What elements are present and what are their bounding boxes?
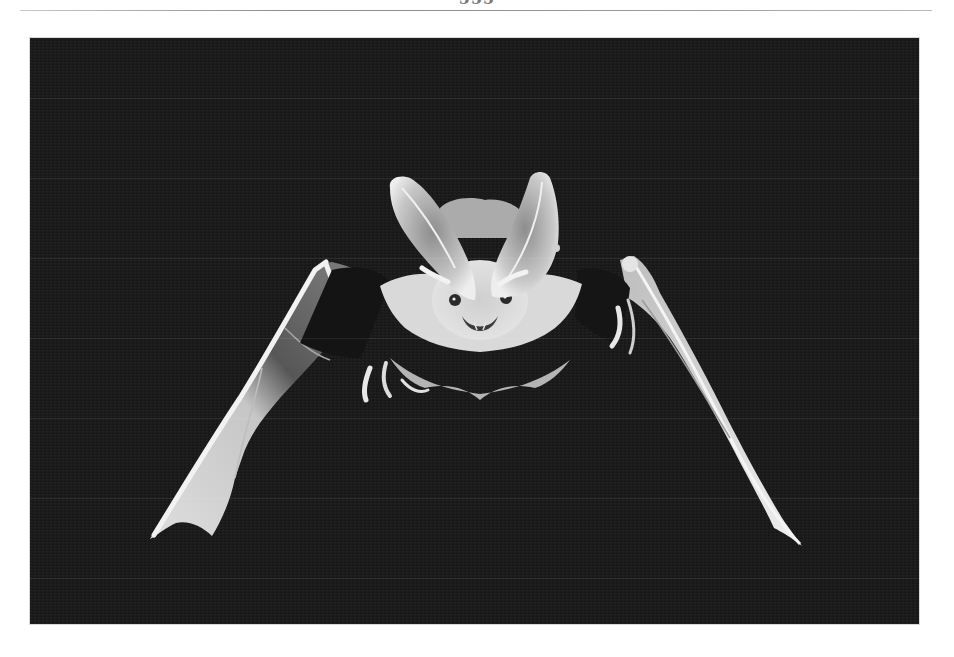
bat-photograph (30, 38, 919, 624)
page-number: 555 (0, 0, 954, 7)
bat-illustration (30, 38, 919, 624)
header-rule (20, 10, 932, 11)
